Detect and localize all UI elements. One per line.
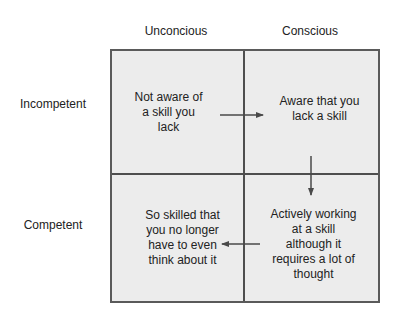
- cell-text-line: lack a skill: [280, 109, 360, 124]
- cell-text-line: lack: [134, 120, 202, 135]
- cell-text-line: Aware that you: [280, 94, 360, 109]
- competence-matrix: Not aware of a skill you lack Aware that…: [110, 49, 380, 303]
- cell-text-line: Actively working: [270, 207, 356, 222]
- cell-text-line: at a skill: [270, 222, 356, 237]
- cell-text-line: have to even: [145, 238, 220, 253]
- cell-text-line: requires a lot of: [270, 252, 356, 267]
- cell-text-line: thought: [270, 267, 356, 282]
- cell-text-line: although it: [270, 237, 356, 252]
- column-header-conscious: Conscious: [244, 24, 376, 38]
- cell-text-line: you no longer: [145, 223, 220, 238]
- column-header-unconscious: Unconcious: [110, 24, 242, 38]
- row-header-incompetent: Incompetent: [8, 97, 98, 111]
- cell-competent-conscious: Actively working at a skill although it …: [245, 175, 380, 301]
- cell-text-line: Not aware of: [134, 90, 202, 105]
- cell-text-line: think about it: [145, 253, 220, 268]
- cell-incompetent-conscious: Aware that you lack a skill: [245, 51, 380, 173]
- cell-text-line: a skill you: [134, 105, 202, 120]
- cell-incompetent-unconscious: Not aware of a skill you lack: [112, 51, 243, 173]
- cell-competent-unconscious: So skilled that you no longer have to ev…: [112, 175, 243, 301]
- cell-text-line: So skilled that: [145, 208, 220, 223]
- row-header-competent: Competent: [8, 218, 98, 232]
